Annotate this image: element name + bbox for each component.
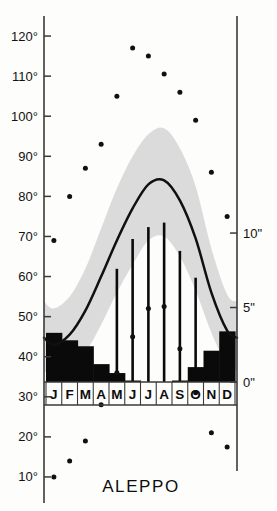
record-low-dot bbox=[162, 304, 167, 309]
record-low-dot bbox=[51, 474, 56, 479]
climagraph: 10°20°30°40°50°60°70°80°90°100°110°120° … bbox=[0, 0, 277, 511]
month-label-m-2: M bbox=[80, 387, 91, 402]
precipitation-bar bbox=[204, 351, 220, 382]
record-low-dot bbox=[146, 306, 151, 311]
temperature-tick-label: 50° bbox=[18, 309, 38, 324]
temperature-tick-label: 20° bbox=[18, 429, 38, 444]
record-high-dot bbox=[209, 170, 214, 175]
month-label-s-8: S bbox=[175, 387, 184, 402]
record-high-dot bbox=[225, 214, 230, 219]
temperature-tick-label: 60° bbox=[18, 269, 38, 284]
record-low-dot bbox=[209, 430, 214, 435]
temperature-tick-label: 30° bbox=[18, 389, 38, 404]
temperature-tick-label: 100° bbox=[11, 109, 38, 124]
precipitation-bar bbox=[93, 364, 109, 382]
temperature-tick-label: 40° bbox=[18, 349, 38, 364]
month-label-d-11: D bbox=[222, 387, 232, 402]
record-low-dot bbox=[177, 346, 182, 351]
record-high-dot bbox=[146, 54, 151, 59]
month-label-j-5: J bbox=[129, 387, 137, 402]
month-label-f-1: F bbox=[66, 387, 74, 402]
record-high-dot bbox=[193, 118, 198, 123]
precipitation-tick-label: 5" bbox=[243, 300, 255, 315]
precipitation-tick-label: 0" bbox=[243, 375, 255, 390]
month-label-a-3: A bbox=[96, 387, 106, 402]
record-high-dot bbox=[114, 94, 119, 99]
record-high-dot bbox=[67, 194, 72, 199]
chart-background bbox=[0, 0, 277, 511]
precipitation-bar bbox=[78, 346, 94, 382]
temperature-tick-label: 90° bbox=[18, 149, 38, 164]
month-label-a-7: A bbox=[159, 387, 169, 402]
temperature-tick-label: 80° bbox=[18, 189, 38, 204]
record-low-dot bbox=[225, 444, 230, 449]
record-high-dot bbox=[83, 166, 88, 171]
month-label-o-9: O bbox=[190, 387, 201, 402]
record-low-dot bbox=[130, 334, 135, 339]
temperature-tick-label: 120° bbox=[11, 29, 38, 44]
precipitation-bar bbox=[219, 331, 235, 382]
climate-chart-svg: 10°20°30°40°50°60°70°80°90°100°110°120° … bbox=[0, 0, 277, 511]
record-low-dot bbox=[114, 370, 119, 375]
page-title: ALEPPO bbox=[102, 477, 180, 496]
record-low-dot bbox=[83, 438, 88, 443]
temperature-tick-label: 110° bbox=[12, 69, 38, 84]
record-high-dot bbox=[51, 238, 56, 243]
record-low-dot bbox=[67, 458, 72, 463]
month-label-m-4: M bbox=[111, 387, 122, 402]
month-label-j-0: J bbox=[50, 387, 58, 402]
record-high-dot bbox=[130, 46, 135, 51]
precipitation-tick-label: 10" bbox=[243, 226, 262, 241]
record-high-dot bbox=[99, 142, 104, 147]
month-label-n-10: N bbox=[207, 387, 217, 402]
precipitation-bar bbox=[62, 340, 78, 382]
record-high-dot bbox=[162, 72, 167, 77]
temperature-tick-label: 10° bbox=[18, 469, 38, 484]
month-label-j-6: J bbox=[145, 387, 153, 402]
temperature-tick-label: 70° bbox=[18, 229, 38, 244]
record-high-dot bbox=[177, 90, 182, 95]
